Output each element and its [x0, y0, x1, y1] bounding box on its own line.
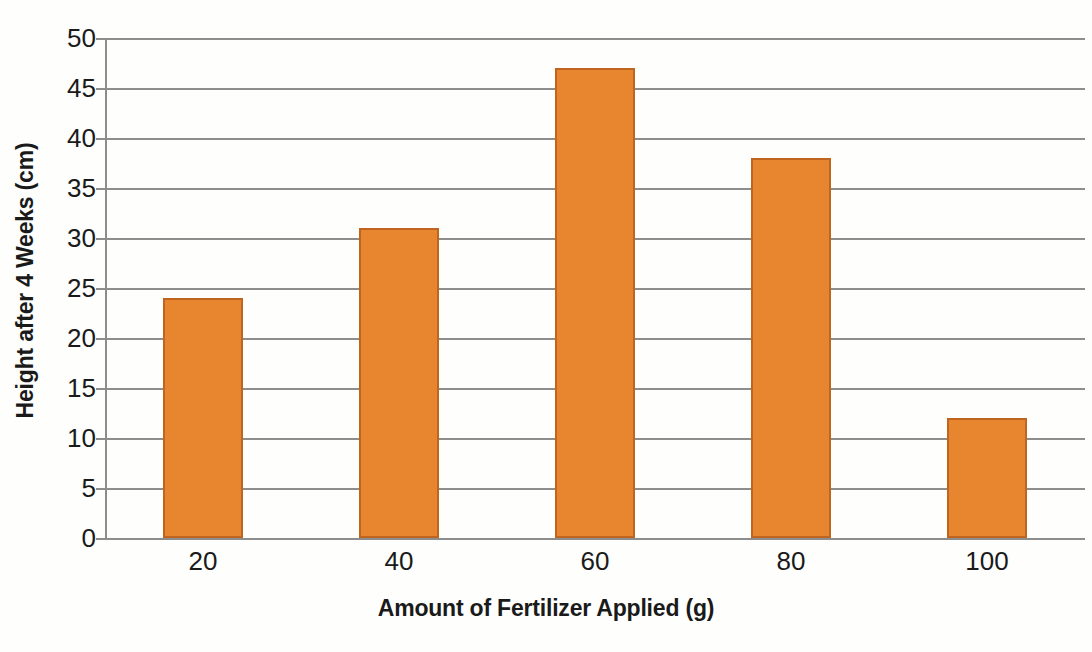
plot-area: [105, 38, 1085, 538]
y-axis-tick-label: 20: [46, 325, 96, 351]
x-axis-tick-label: 60: [535, 548, 655, 574]
y-axis-tick-label: 10: [46, 425, 96, 451]
y-axis-tick-label: 50: [46, 25, 96, 51]
y-axis-tick-label: 0: [46, 525, 96, 551]
x-axis-title: Amount of Fertilizer Applied (g): [0, 595, 1092, 622]
gridline: [105, 38, 1085, 40]
bar-chart: Height after 4 Weeks (cm) 50454035302520…: [0, 0, 1092, 652]
bar[interactable]: [359, 228, 439, 538]
y-axis-title-text: Height after 4 Weeks (cm): [13, 142, 40, 418]
bar[interactable]: [555, 68, 635, 538]
x-axis-tick-label: 100: [927, 548, 1047, 574]
x-axis-tick-label: 40: [339, 548, 459, 574]
bar[interactable]: [947, 418, 1027, 538]
y-axis-tick-label: 15: [46, 375, 96, 401]
x-axis-baseline: [105, 538, 1085, 540]
x-axis-tick-label: 20: [143, 548, 263, 574]
y-axis-tick-label: 5: [46, 475, 96, 501]
x-axis-tick-labels: 20406080100: [105, 548, 1085, 588]
y-axis-tick-label: 35: [46, 175, 96, 201]
y-axis-title: Height after 4 Weeks (cm): [0, 0, 52, 560]
bar[interactable]: [163, 298, 243, 538]
y-axis-tick-labels: 50454035302520151050: [46, 0, 96, 652]
y-axis-tick-label: 30: [46, 225, 96, 251]
y-axis-tick-label: 40: [46, 125, 96, 151]
y-axis-tick-label: 45: [46, 75, 96, 101]
y-axis-tick-label: 25: [46, 275, 96, 301]
x-axis-tick-label: 80: [731, 548, 851, 574]
bar[interactable]: [751, 158, 831, 538]
